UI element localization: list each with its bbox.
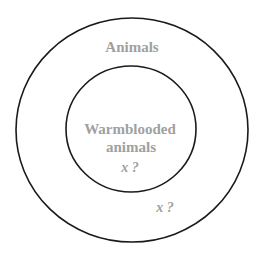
- outer-set-label: Animals: [105, 39, 159, 55]
- outer-set-variable: x ?: [155, 200, 174, 215]
- venn-diagram: Animals Warmblooded animals x ? x ?: [0, 0, 260, 254]
- inner-set-label-line1: Warmblooded: [84, 121, 176, 137]
- inner-set-variable: x ?: [120, 160, 139, 175]
- inner-set-label-line2: animals: [106, 139, 156, 155]
- venn-diagram-svg: Animals Warmblooded animals x ? x ?: [0, 0, 260, 254]
